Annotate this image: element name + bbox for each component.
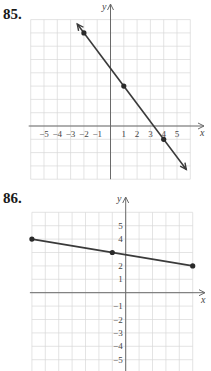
plotted-point [81,30,86,35]
x-tick-label: 3 [148,129,153,139]
x-axis-label: x [200,294,206,305]
graphs-canvas: 85.xy−5−4−3−2−11234586.xy5421−1−2−3−4−5 [0,0,211,371]
y-tick-label: −2 [113,315,123,325]
y-tick-label: 1 [118,274,123,284]
y-tick-label: −5 [113,355,123,365]
x-tick-label: −2 [79,129,89,139]
problem-number: 85. [3,6,22,22]
plotted-point [190,263,195,268]
y-tick-label: 5 [118,221,123,231]
x-tick-label: −4 [53,129,63,139]
problem-number: 86. [3,190,22,206]
y-tick-label: −4 [113,341,123,351]
x-tick-label: −1 [92,129,102,139]
graph-86: 86.xy5421−1−2−3−4−5 [3,190,206,371]
x-tick-label: 1 [122,129,127,139]
y-tick-label: −3 [113,328,123,338]
x-tick-label: −5 [39,129,49,139]
x-tick-label: −3 [66,129,76,139]
y-tick-label: 2 [118,261,123,271]
x-tick-label: 5 [175,129,180,139]
plotted-point [29,237,34,242]
y-axis-label: y [116,193,122,204]
plotted-point [161,137,166,142]
graph-85: 85.xy−5−4−3−2−112345 [3,1,205,179]
plotted-point [110,250,115,255]
x-axis-label: x [199,127,205,138]
y-axis-label: y [101,1,107,12]
graph-line [77,24,186,169]
plotted-point [121,84,126,89]
x-tick-label: 2 [135,129,140,139]
y-tick-label: 4 [118,234,123,244]
y-tick-label: −1 [113,301,123,311]
